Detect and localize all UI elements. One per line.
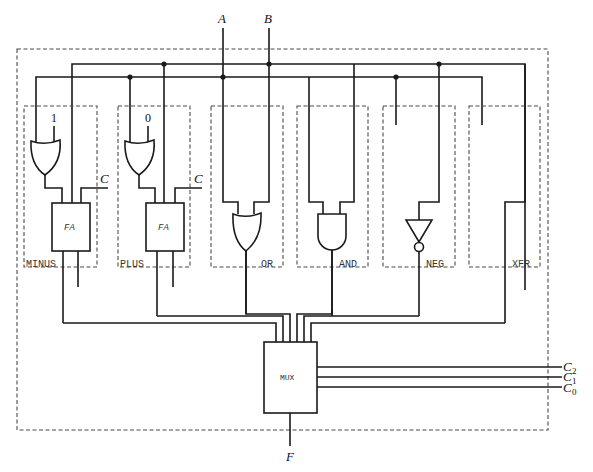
and-gate	[318, 214, 346, 250]
control-lines	[317, 367, 562, 387]
svg-text:C: C	[563, 380, 572, 395]
input-a-label: A	[217, 11, 226, 26]
svg-text:1: 1	[572, 376, 577, 386]
module-neg: NEG	[383, 64, 455, 316]
not-gate	[406, 220, 432, 242]
or-gate	[233, 213, 261, 251]
module-or: OR	[211, 100, 283, 310]
minus-fa-label: FA	[64, 223, 75, 233]
plus-or-gate	[125, 140, 154, 175]
minus-or-gate	[31, 140, 60, 175]
neg-module-label: NEG	[426, 259, 444, 270]
output-f-label: F	[285, 449, 295, 464]
minus-carry-label: C	[100, 171, 109, 186]
bus-a	[36, 77, 482, 125]
minus-module-label: MINUS	[26, 259, 56, 270]
xfr-module-label: XFR	[512, 259, 530, 270]
mux: MUX	[264, 342, 317, 413]
plus-const-input: 0	[145, 111, 151, 125]
not-bubble	[415, 243, 424, 252]
plus-fa-label: FA	[158, 223, 169, 233]
mux-label: MUX	[280, 373, 295, 382]
and-module-label: AND	[339, 259, 357, 270]
module-xfr: XFR	[469, 64, 540, 323]
plus-module-label: PLUS	[120, 259, 144, 270]
minus-const-input: 1	[51, 111, 57, 125]
input-b-label: B	[264, 11, 272, 26]
plus-carry-label: C	[194, 171, 203, 186]
module-plus: 0 C FA PLUS	[118, 64, 203, 316]
bus-b	[72, 64, 525, 290]
svg-text:2: 2	[572, 366, 577, 376]
alu-circuit-diagram: A B 1 C FA	[0, 0, 593, 472]
svg-text:0: 0	[572, 387, 577, 397]
or-module-label: OR	[261, 259, 273, 270]
mux-input-wires	[63, 310, 505, 342]
